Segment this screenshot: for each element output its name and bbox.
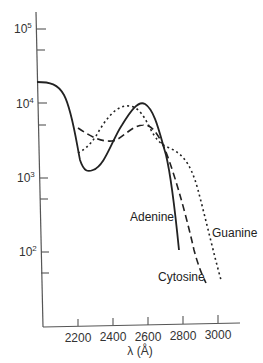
x-axis [43,323,240,327]
y-label-1e3: 103 [17,170,35,185]
y-label-1e2: 102 [19,244,37,259]
y-tick-labels: 105 104 103 102 [14,21,37,259]
guanine-curve [78,106,221,280]
x-label-2200: 2200 [65,331,92,345]
x-label-2800: 2800 [170,329,197,343]
guanine-label: Guanine [212,226,258,240]
adenine-curve [37,82,179,250]
cytosine-label: Cytosine [158,270,205,284]
y-axis [36,12,43,327]
axes [36,12,240,327]
x-label-2400: 2400 [100,330,127,344]
absorption-spectrum-chart: 105 104 103 102 2200 2400 2600 2800 3000… [0,0,263,363]
y-label-1e4: 104 [16,96,34,111]
y-label-1e5: 105 [14,21,32,36]
cytosine-curve [78,125,206,283]
x-label-3000: 3000 [205,328,232,342]
x-label-2600: 2600 [135,330,162,344]
adenine-label: Adenine [130,210,174,224]
x-tick-labels: 2200 2400 2600 2800 3000 [65,328,232,345]
x-axis-title: λ (Å) [127,343,152,358]
